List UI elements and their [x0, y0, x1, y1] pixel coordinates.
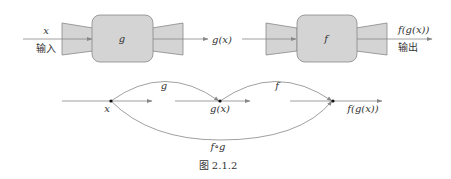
g-machine: g x 输入 g(x) [23, 15, 232, 62]
g-input-label: x [43, 25, 49, 36]
point-x-label: x [104, 103, 110, 114]
composition-diagram: g x 输入 g(x) f f(g(x)) 输出 x g(x) f(g(x)) … [0, 0, 451, 179]
output-caption: 输出 [398, 41, 418, 53]
f-machine: f f(g(x)) 输出 [242, 15, 432, 62]
g-arc-label: g [161, 80, 167, 91]
input-caption: 输入 [36, 42, 56, 54]
composite-arc-label: f∘g [209, 141, 225, 152]
point-fgx-label: f(g(x)) [346, 103, 378, 114]
composition-lines: x g(x) f(g(x)) g f f∘g [62, 80, 382, 152]
point-x [109, 99, 112, 102]
point-gx-label: g(x) [210, 103, 230, 114]
f-output-label: f(g(x)) [397, 24, 429, 35]
figure-caption: 图 2.1.2 [199, 160, 238, 171]
g-output-label: g(x) [212, 34, 232, 45]
point-fgx [331, 99, 334, 102]
g-box-label: g [119, 33, 125, 44]
